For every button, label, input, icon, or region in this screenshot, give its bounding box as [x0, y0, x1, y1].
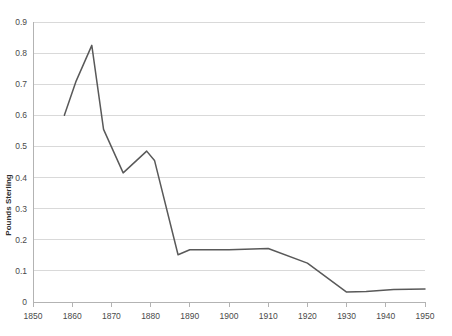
x-tick-label: 1880	[141, 311, 160, 321]
y-axis-title: Pounds Sterling	[4, 174, 13, 235]
y-tick-label: 0.7	[15, 79, 27, 89]
x-tick-label: 1920	[298, 311, 317, 321]
x-tick-label: 1850	[24, 311, 43, 321]
line-chart: 00.10.20.30.40.50.60.70.80.9 18501860187…	[0, 0, 452, 336]
y-tick-label: 0.5	[15, 141, 27, 151]
x-tick-label: 1940	[376, 311, 395, 321]
gridlines-group	[33, 22, 425, 302]
data-series-group	[64, 45, 425, 292]
y-tick-label: 0.3	[15, 204, 27, 214]
x-axis-tick-labels: 1850186018701880189019001910192019301940…	[24, 311, 435, 321]
x-tick-label: 1930	[337, 311, 356, 321]
data-line-pounds-sterling	[64, 45, 425, 292]
x-tick-label: 1900	[220, 311, 239, 321]
x-tick-label: 1890	[180, 311, 199, 321]
x-tick-label: 1950	[416, 311, 435, 321]
axes-group	[33, 22, 425, 302]
y-tick-label: 0.9	[15, 17, 27, 27]
y-tick-label: 0.8	[15, 48, 27, 58]
x-tick-label: 1870	[102, 311, 121, 321]
y-tick-label: 0.2	[15, 235, 27, 245]
y-tick-label: 0	[22, 297, 27, 307]
y-tick-label: 0.4	[15, 173, 27, 183]
chart-canvas: 00.10.20.30.40.50.60.70.80.9 18501860187…	[0, 0, 452, 336]
y-tick-label: 0.6	[15, 110, 27, 120]
x-tick-label: 1860	[63, 311, 82, 321]
x-axis-tick-marks	[33, 302, 425, 307]
y-tick-label: 0.1	[15, 266, 27, 276]
x-tick-label: 1910	[259, 311, 278, 321]
y-axis-tick-labels: 00.10.20.30.40.50.60.70.80.9	[15, 17, 27, 307]
